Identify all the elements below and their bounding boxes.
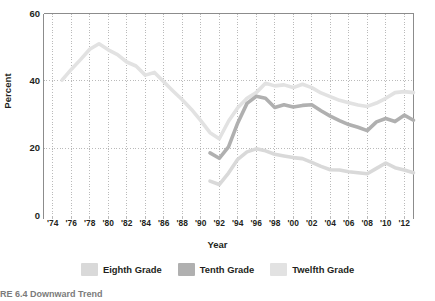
figure-caption: RE 6.4 Downward Trend (0, 289, 435, 299)
legend-label: Tenth Grade (200, 264, 255, 275)
legend-swatch-icon (270, 263, 287, 276)
line-chart-plot (0, 0, 435, 301)
x-tick-label: '12 (391, 218, 417, 228)
y-tick-label: 20 (16, 143, 40, 153)
legend-swatch-icon (81, 263, 98, 276)
x-axis-title: Year (0, 239, 435, 250)
y-tick-label: 60 (16, 9, 40, 19)
legend-swatch-icon (178, 263, 195, 276)
legend-item-twelfth-grade[interactable]: Twelfth Grade (270, 263, 354, 276)
legend-label: Twelfth Grade (292, 264, 354, 275)
chart-legend: Eighth GradeTenth GradeTwelfth Grade (0, 259, 435, 279)
x-axis-ticks: '74'76'78'80'82'84'86'88'90'92'94'96'98'… (0, 218, 435, 232)
figure-downward-trend: Percent 0204060 '74'76'78'80'82'84'86'88… (0, 0, 435, 301)
legend-label: Eighth Grade (103, 264, 162, 275)
y-axis-ticks: 0204060 (10, 0, 40, 230)
legend-item-tenth-grade[interactable]: Tenth Grade (178, 263, 255, 276)
y-tick-label: 40 (16, 76, 40, 86)
legend-item-eighth-grade[interactable]: Eighth Grade (81, 263, 162, 276)
